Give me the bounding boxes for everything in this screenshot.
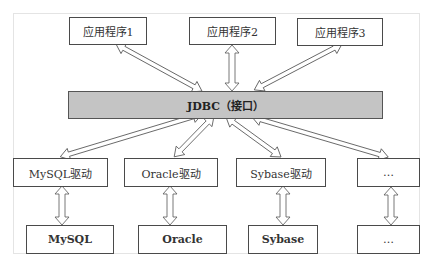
db-box-sybase: Sybase bbox=[248, 225, 318, 254]
db-box-mysql: MySQL bbox=[26, 225, 114, 254]
jdbc-interface-label: JDBC（接口） bbox=[187, 97, 264, 113]
db-label-mysql: MySQL bbox=[48, 233, 92, 246]
driver-label-mysql: MySQL驱动 bbox=[29, 165, 92, 181]
arrow-otherdriver-otherdb bbox=[384, 187, 398, 225]
app-box-3: 应用程序3 bbox=[297, 18, 383, 46]
driver-label-sybase: Sybase驱动 bbox=[250, 165, 312, 181]
arrow-app1-jdbc bbox=[113, 39, 205, 97]
driver-box-sybase: Sybase驱动 bbox=[236, 158, 326, 187]
app-label-2: 应用程序2 bbox=[207, 23, 258, 39]
jdbc-interface-bar: JDBC（接口） bbox=[68, 91, 383, 119]
db-label-oracle: Oracle bbox=[162, 233, 202, 246]
driver-box-oracle: Oracle驱动 bbox=[124, 158, 218, 187]
arrow-sybasedriver-sybase bbox=[276, 186, 290, 225]
arrow-oracledriver-oracle bbox=[163, 186, 177, 225]
db-label-other: … bbox=[383, 233, 394, 246]
driver-box-other: … bbox=[357, 158, 420, 187]
app-label-1: 应用程序1 bbox=[83, 23, 134, 39]
arrow-jdbc-sybasedriver bbox=[222, 112, 284, 162]
driver-label-oracle: Oracle驱动 bbox=[141, 165, 200, 181]
db-box-oracle: Oracle bbox=[138, 225, 227, 254]
app-box-1: 应用程序1 bbox=[69, 17, 147, 45]
db-box-other: … bbox=[357, 225, 420, 254]
arrow-app3-jdbc bbox=[251, 39, 344, 96]
arrow-app2-jdbc bbox=[225, 45, 239, 91]
app-box-2: 应用程序2 bbox=[189, 17, 276, 45]
driver-label-other: … bbox=[383, 166, 394, 179]
db-label-sybase: Sybase bbox=[262, 233, 304, 246]
arrow-mysqldriver-mysql bbox=[55, 186, 69, 225]
app-label-3: 应用程序3 bbox=[315, 24, 366, 40]
driver-box-mysql: MySQL驱动 bbox=[13, 158, 108, 187]
